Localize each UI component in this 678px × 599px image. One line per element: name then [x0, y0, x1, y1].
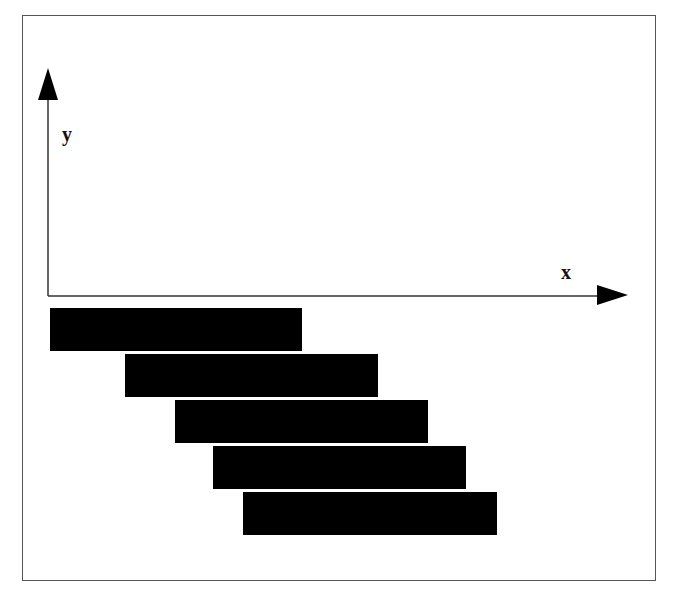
y-axis-label: y [62, 124, 72, 144]
bar-3 [175, 400, 428, 443]
y-axis-arrow-icon [38, 68, 58, 100]
bar-1 [50, 308, 302, 351]
bar-4 [213, 446, 466, 489]
bar-2 [125, 354, 378, 397]
x-axis-label: x [561, 262, 571, 282]
bar-5 [243, 492, 497, 535]
x-axis-arrow-icon [597, 285, 628, 305]
